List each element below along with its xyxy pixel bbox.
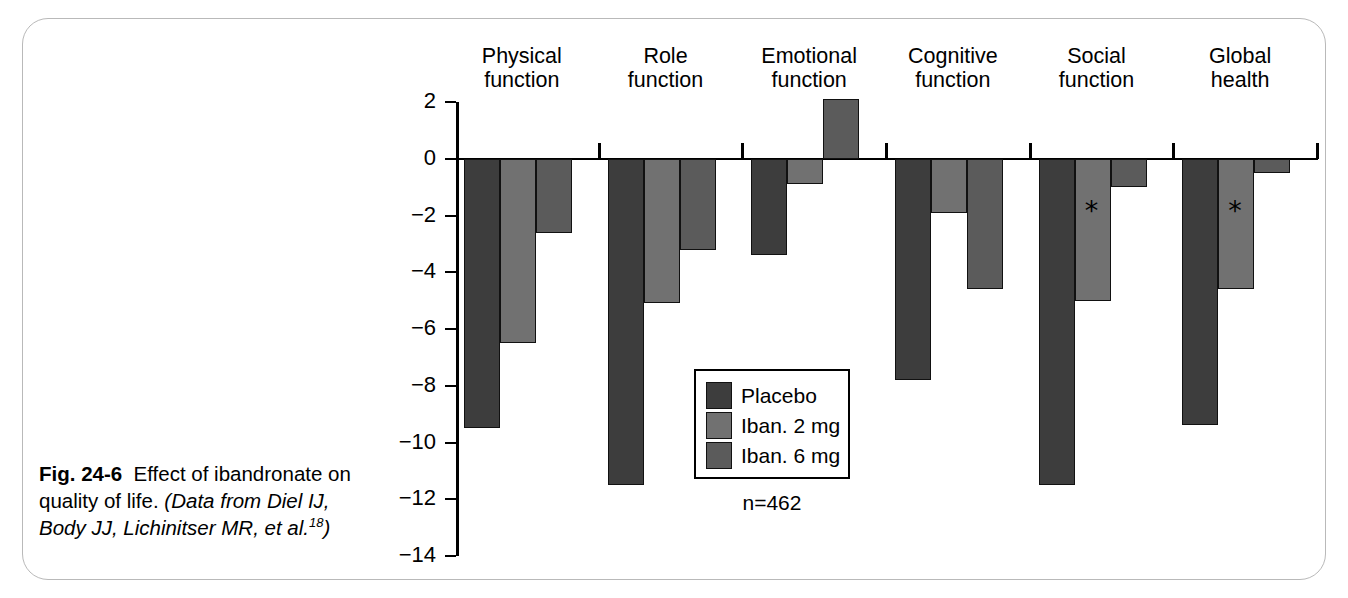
y-axis-tick-label: −6: [348, 317, 436, 339]
bar: [464, 159, 500, 429]
figure-panel: 20−2−4−6−8−10−12−14PhysicalfunctionRolef…: [0, 0, 1348, 598]
category-label: Cognitivefunction: [881, 44, 1025, 92]
category-label-line: Role: [594, 44, 738, 68]
figure-caption: Fig. 24-6 Effect of ibandronate on quali…: [39, 460, 359, 541]
x-axis-separator-tick: [741, 143, 744, 159]
x-axis-separator-tick: [1029, 143, 1032, 159]
y-axis-tick: [445, 385, 456, 387]
category-label-line: function: [450, 68, 594, 92]
y-axis-tick-label: −14: [348, 544, 436, 566]
x-axis-separator-tick: [885, 143, 888, 159]
bar: [644, 159, 680, 304]
caption-spacer: [122, 462, 133, 485]
category-label: Emotionalfunction: [737, 44, 881, 92]
y-axis-tick-label: −4: [348, 260, 436, 282]
category-label: Physicalfunction: [450, 44, 594, 92]
bar: [787, 159, 823, 185]
y-axis-tick: [445, 158, 456, 160]
y-axis-tick: [445, 498, 456, 500]
y-axis-tick-label: 2: [348, 90, 436, 112]
y-axis-tick-label: −10: [348, 431, 436, 453]
category-label: Socialfunction: [1025, 44, 1169, 92]
y-axis-tick: [445, 101, 456, 103]
bar: [500, 159, 536, 343]
bar: [1111, 159, 1147, 187]
caption-reference: 18: [309, 515, 323, 530]
legend-item-iban-2mg: Iban. 2 mg: [706, 410, 848, 440]
bar: [1075, 159, 1111, 301]
y-axis-tick-label: −12: [348, 487, 436, 509]
category-label: Globalhealth: [1168, 44, 1312, 92]
significance-asterisk: *: [1228, 197, 1242, 224]
y-axis-tick-label: −8: [348, 374, 436, 396]
x-axis-separator-tick: [1172, 143, 1175, 159]
bar: [1039, 159, 1075, 485]
y-axis-tick: [445, 442, 456, 444]
bar: [608, 159, 644, 485]
bar: [751, 159, 787, 255]
category-label-line: Global: [1168, 44, 1312, 68]
figure-number: Fig. 24-6: [39, 462, 122, 485]
bar: [1254, 159, 1290, 173]
category-label-line: Emotional: [737, 44, 881, 68]
bar: [895, 159, 931, 380]
legend-swatch-iban-2mg: [706, 412, 732, 439]
caption-source-close: ): [323, 516, 330, 539]
y-axis-tick-label: 0: [348, 147, 436, 169]
y-axis-tick: [445, 328, 456, 330]
bar: [967, 159, 1003, 290]
legend-item-iban-6mg: Iban. 6 mg: [706, 440, 848, 470]
category-label-line: Cognitive: [881, 44, 1025, 68]
y-axis-tick: [445, 555, 456, 557]
sample-size-note: n=462: [694, 491, 850, 515]
category-label-line: function: [881, 68, 1025, 92]
bar: [680, 159, 716, 250]
significance-asterisk: *: [1085, 197, 1099, 224]
y-axis-spine: [456, 102, 459, 556]
legend-label-iban-6mg: Iban. 6 mg: [741, 445, 840, 466]
category-label-line: Social: [1025, 44, 1169, 68]
y-axis-tick: [445, 271, 456, 273]
category-label: Rolefunction: [594, 44, 738, 92]
bar: [931, 159, 967, 213]
category-label-line: function: [594, 68, 738, 92]
category-label-line: function: [737, 68, 881, 92]
legend-swatch-iban-6mg: [706, 442, 732, 469]
x-axis-separator-tick: [598, 143, 601, 159]
bar: [823, 99, 859, 159]
legend-label-iban-2mg: Iban. 2 mg: [741, 415, 840, 436]
legend-label-placebo: Placebo: [741, 385, 817, 406]
category-label-line: Physical: [450, 44, 594, 68]
chart-legend: Placebo Iban. 2 mg Iban. 6 mg: [694, 369, 850, 479]
legend-swatch-placebo: [706, 382, 732, 409]
bar: [1182, 159, 1218, 426]
bar: [536, 159, 572, 233]
y-axis-tick: [445, 215, 456, 217]
x-axis-separator-tick: [1316, 143, 1319, 159]
legend-item-placebo: Placebo: [706, 380, 848, 410]
y-axis-tick-label: −2: [348, 204, 436, 226]
category-label-line: health: [1168, 68, 1312, 92]
category-label-line: function: [1025, 68, 1169, 92]
